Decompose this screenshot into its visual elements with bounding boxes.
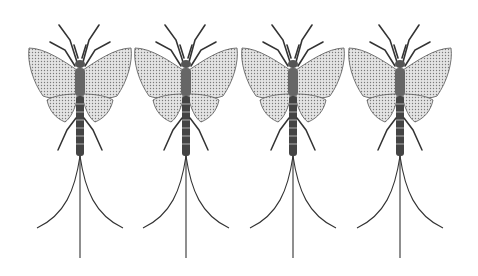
tails	[37, 156, 123, 258]
right-forewing	[296, 48, 344, 98]
mayfly-4	[345, 0, 455, 276]
thorax	[181, 68, 191, 96]
abdomen	[396, 96, 404, 156]
head	[288, 60, 298, 68]
mayfly-3	[238, 0, 348, 276]
left-hindwing	[260, 94, 290, 122]
illustration: Engraved illustration of four mayflies a…	[0, 0, 478, 276]
abdomen	[182, 96, 190, 156]
left-forewing	[242, 48, 290, 98]
mayfly-2	[131, 0, 241, 276]
thorax	[75, 68, 85, 96]
head	[75, 60, 85, 68]
right-forewing	[403, 48, 451, 98]
abdomen	[76, 96, 84, 156]
left-hindwing	[367, 94, 397, 122]
right-forewing	[189, 48, 237, 98]
abdomen	[289, 96, 297, 156]
head	[181, 60, 191, 68]
mayfly-1	[25, 0, 135, 276]
right-hindwing	[189, 94, 219, 122]
thorax	[395, 68, 405, 96]
thorax	[288, 68, 298, 96]
left-forewing	[349, 48, 397, 98]
right-hindwing	[403, 94, 433, 122]
head	[395, 60, 405, 68]
right-forewing	[83, 48, 131, 98]
left-forewing	[29, 48, 77, 98]
left-hindwing	[153, 94, 183, 122]
right-hindwing	[83, 94, 113, 122]
tails	[143, 156, 229, 258]
tails	[250, 156, 336, 258]
left-forewing	[135, 48, 183, 98]
left-hindwing	[47, 94, 77, 122]
right-hindwing	[296, 94, 326, 122]
tails	[357, 156, 443, 258]
